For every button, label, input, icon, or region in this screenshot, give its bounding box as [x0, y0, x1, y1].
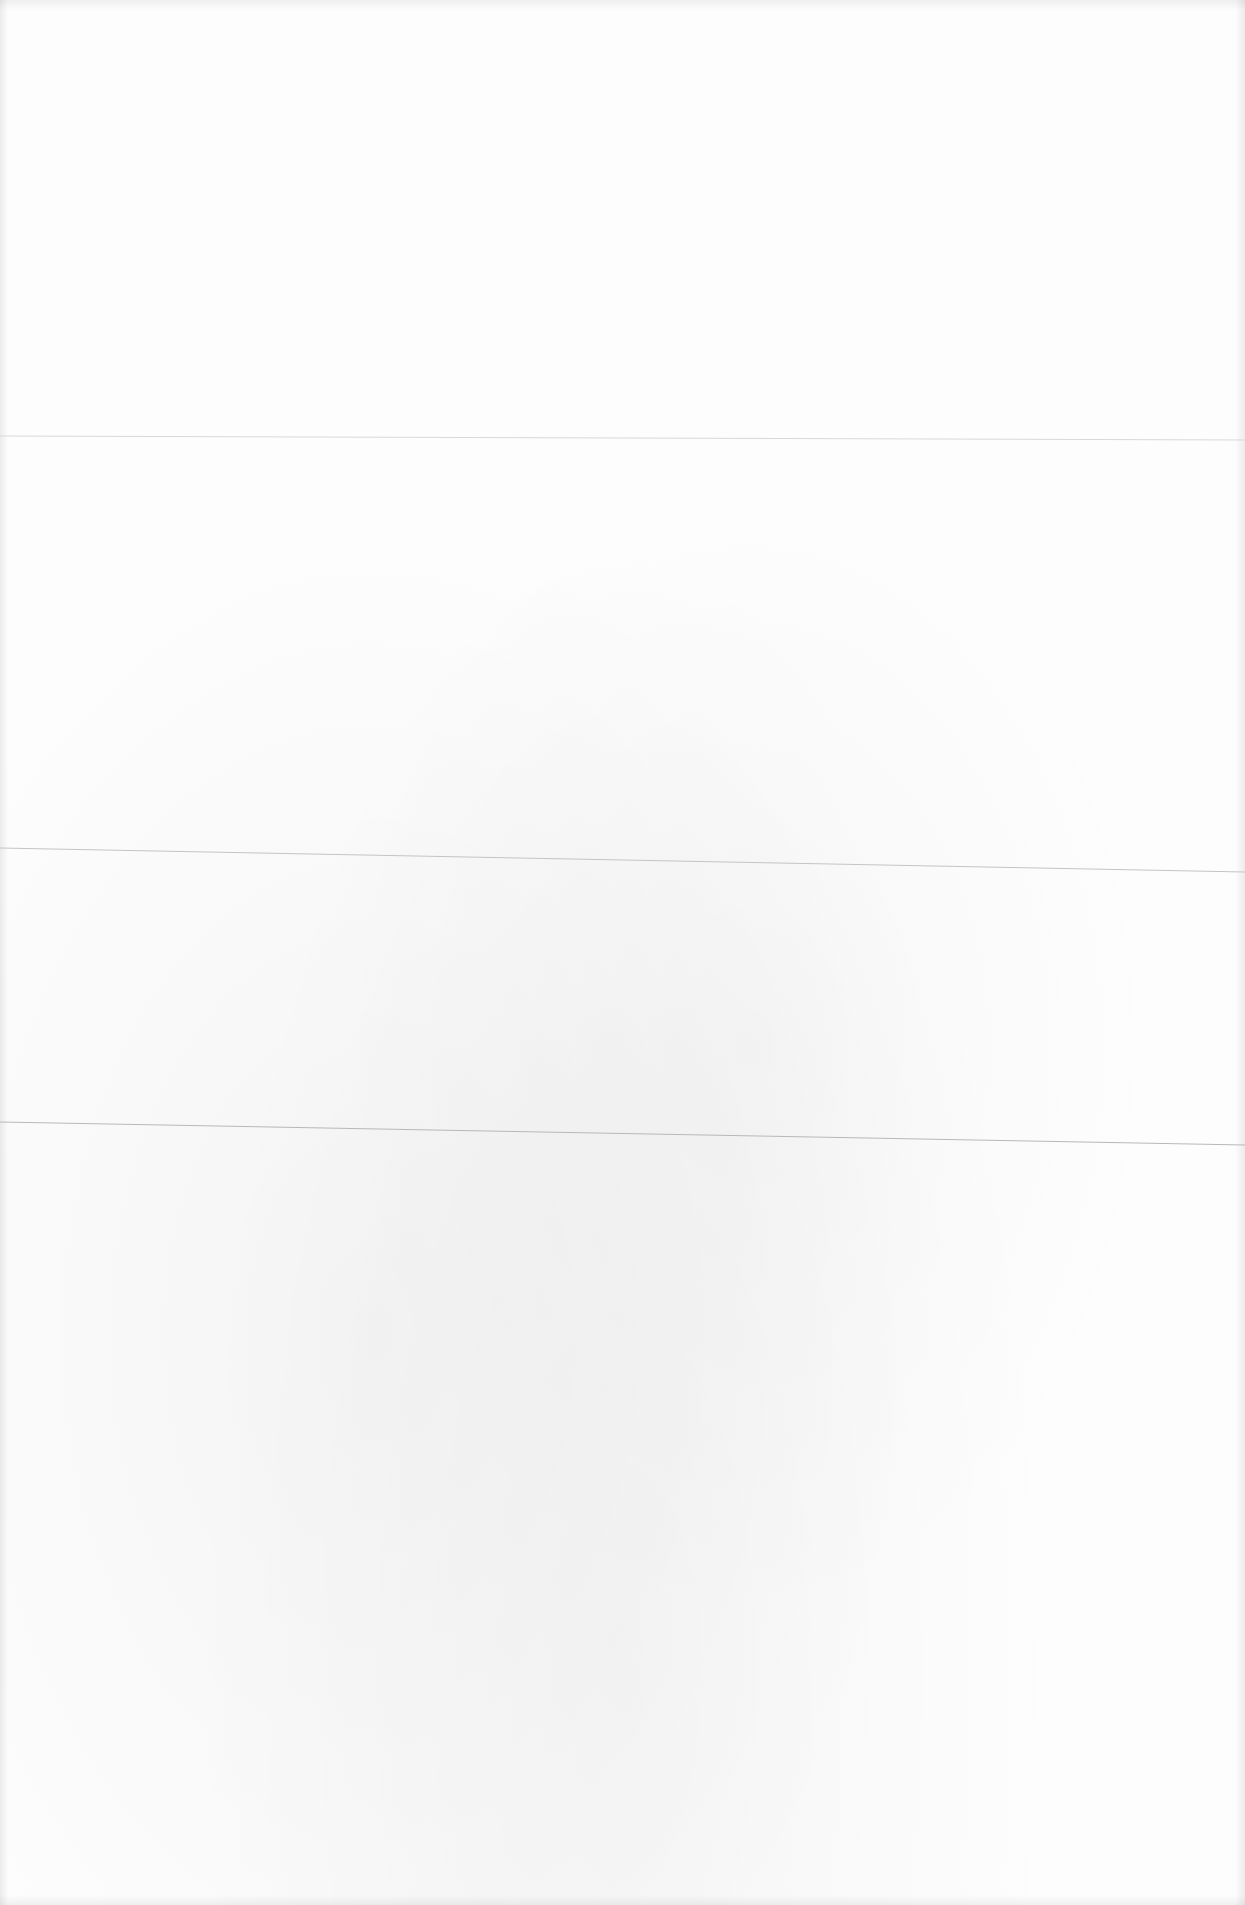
blank-page [0, 0, 1245, 1905]
rule-line-2 [0, 1122, 1245, 1145]
faint-line-1 [0, 436, 1245, 440]
rule-lines [0, 0, 1245, 1905]
rule-line-1 [0, 848, 1245, 872]
